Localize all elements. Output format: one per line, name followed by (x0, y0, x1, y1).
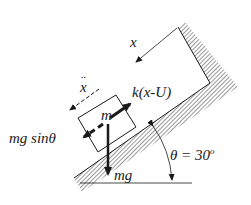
displacement-arrow (136, 28, 177, 62)
acceleration-label: x (79, 79, 87, 95)
mass-label: m (101, 107, 112, 123)
displacement-label: x (129, 34, 137, 50)
angle-label: θ = 30o (170, 146, 215, 163)
acceleration-dots: .. (81, 68, 87, 80)
gravity-component-label: mg sinθ (9, 130, 57, 146)
weight-label: mg (114, 167, 133, 183)
incline-diagram: θ = 30o x x .. m k(x-U) mg sinθ mg (0, 0, 251, 205)
spring-force-label: k(x-U) (132, 84, 171, 101)
